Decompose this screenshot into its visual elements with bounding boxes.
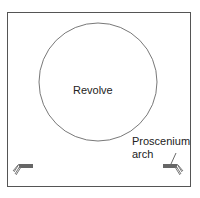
- stage-outline: [8, 13, 191, 187]
- left-proscenium-wall: [13, 164, 33, 175]
- proscenium-leader-line: [171, 153, 176, 164]
- revolve-label: Revolve: [73, 84, 113, 96]
- proscenium-label-line1: Proscenium: [132, 135, 190, 147]
- revolve-circle: [39, 23, 157, 141]
- stage-plan-diagram: [0, 0, 200, 198]
- right-proscenium-wall: [163, 164, 183, 175]
- proscenium-label-line2: arch: [132, 148, 153, 160]
